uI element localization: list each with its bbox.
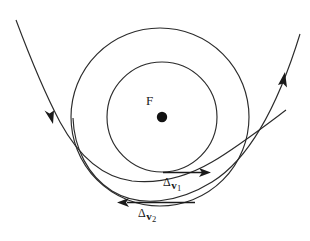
incoming-trajectory-arrowhead-icon <box>45 111 55 125</box>
delta-v1-delta-symbol: Δ <box>163 175 171 189</box>
delta-v1-vector-symbol: v <box>171 179 177 191</box>
delta-v1-label: Δv1 <box>163 176 181 192</box>
delta-v2-label: Δv2 <box>138 207 156 223</box>
figure-canvas <box>0 0 310 241</box>
orbital-transfer-figure: F Δv1 Δv2 <box>0 0 310 241</box>
delta-v2-delta-symbol: Δ <box>138 206 146 220</box>
delta-v2-vector-symbol: v <box>146 210 152 222</box>
focus-label: F <box>146 94 153 107</box>
delta-v2-index: 2 <box>152 214 156 224</box>
delta-v1-index: 1 <box>177 183 181 193</box>
focus-dot-icon <box>157 112 167 122</box>
